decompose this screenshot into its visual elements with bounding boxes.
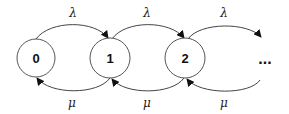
markov-chain-diagram: 0 1 2 ... λ λ λ μ μ μ [0,0,289,114]
edge-more-to-2 [187,79,260,91]
edge-2-to-more [188,26,261,39]
edge-label-more-2: μ [220,96,228,110]
edge-0-to-1 [36,25,108,39]
node-0: 0 [17,39,55,77]
node-1-label: 1 [106,51,113,66]
node-2: 2 [165,38,205,78]
edge-1-to-2 [112,25,184,39]
node-2-label: 2 [181,51,188,66]
edge-label-2-1: μ [143,96,151,110]
node-1: 1 [90,38,130,78]
continuation-ellipsis: ... [258,50,271,67]
edge-1-to-0 [37,78,110,91]
node-0-label: 0 [32,51,39,66]
edge-label-0-1: λ [68,6,77,20]
edge-label-2-more: λ [219,6,228,20]
edge-label-1-0: μ [68,96,76,110]
edge-label-1-2: λ [142,6,151,20]
edge-2-to-1 [112,78,184,91]
